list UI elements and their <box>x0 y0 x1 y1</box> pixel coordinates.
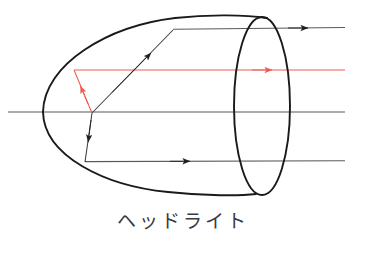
lower-reflected-ray-line <box>85 161 345 162</box>
reflector-bottom-curve <box>43 112 256 195</box>
incident-ray-group <box>74 30 173 162</box>
upper-reflected-ray-line <box>173 28 345 30</box>
parallel-ray-group <box>8 28 345 162</box>
headlight-ray-diagram-figure: ヘッドライト <box>0 0 366 258</box>
lower-incident-ray-arrow <box>88 120 91 142</box>
upper-incident-ray-arrow <box>112 53 151 93</box>
diagram-canvas <box>0 0 366 258</box>
red-incident-ray-arrow <box>81 86 89 104</box>
aperture-ellipse <box>234 17 290 195</box>
